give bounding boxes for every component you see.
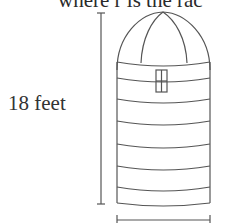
silo-dome <box>117 12 210 70</box>
width-dimension-line <box>117 215 210 223</box>
height-dimension-line <box>97 13 105 204</box>
silo-diagram <box>0 0 236 223</box>
silo-body <box>117 62 210 206</box>
window-icon <box>156 70 167 92</box>
